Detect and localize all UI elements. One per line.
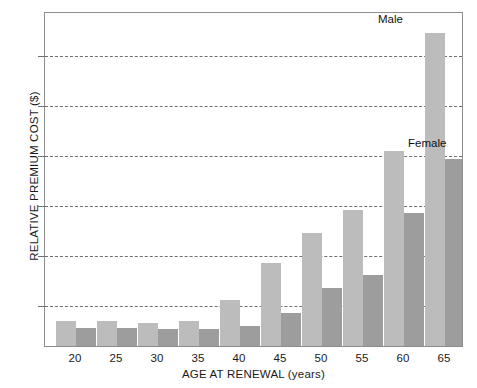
y-axis-tick (38, 206, 45, 207)
y-axis-title: RELATIVE PREMIUM COST ($) (28, 46, 40, 306)
x-axis-tick-label-65: 65 (424, 352, 464, 364)
bar-male-55 (343, 210, 363, 346)
x-axis-tick-label-45: 45 (260, 352, 300, 364)
bar-female-45 (281, 313, 301, 346)
bar-male-25 (97, 321, 117, 346)
bar-female-35 (199, 329, 219, 346)
bar-female-40 (240, 326, 260, 346)
bar-female-55 (363, 275, 383, 346)
bar-male-60 (384, 151, 404, 346)
bar-male-20 (56, 321, 76, 346)
bar-female-60 (404, 213, 424, 346)
plot-inner (45, 13, 462, 346)
y-axis-tick (38, 256, 45, 257)
bar-male-30 (138, 323, 158, 346)
x-axis-tick-label-25: 25 (96, 352, 136, 364)
y-axis-tick (38, 156, 45, 157)
bar-female-20 (76, 328, 96, 346)
bar-male-45 (261, 263, 281, 346)
x-axis-tick-label-40: 40 (219, 352, 259, 364)
bar-female-25 (117, 328, 137, 346)
x-axis-tick-label-60: 60 (383, 352, 423, 364)
bars-layer (45, 13, 462, 346)
x-axis-tick-label-50: 50 (301, 352, 341, 364)
y-axis-tick (38, 56, 45, 57)
plot-frame (44, 12, 463, 347)
bar-female-30 (158, 329, 178, 346)
y-axis-tick (38, 106, 45, 107)
bar-female-65 (445, 159, 462, 346)
x-axis-title: AGE AT RENEWAL (years) (44, 368, 463, 380)
x-axis-tick-label-35: 35 (178, 352, 218, 364)
series-label-female: Female (408, 137, 446, 149)
series-label-male: Male (378, 13, 403, 25)
relative-premium-cost-bar-chart: RELATIVE PREMIUM COST ($) (0, 0, 477, 388)
bar-male-65 (425, 33, 445, 346)
x-axis-tick-label-30: 30 (137, 352, 177, 364)
bar-male-35 (179, 321, 199, 346)
y-axis-tick (38, 306, 45, 307)
x-axis-tick-label-20: 20 (55, 352, 95, 364)
x-axis-tick-label-55: 55 (342, 352, 382, 364)
bar-female-50 (322, 288, 342, 346)
bar-male-50 (302, 233, 322, 346)
bar-male-40 (220, 300, 240, 346)
